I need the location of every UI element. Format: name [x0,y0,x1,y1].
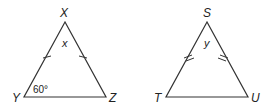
vertex-label-s: S [203,6,211,20]
vertex-label-z: Z [108,91,117,105]
triangle-stu: S T U y [154,6,260,105]
base-angle-label: 60° [33,84,48,95]
triangle-xyz: X Y Z x 60° [12,6,117,105]
double-tick-su-1 [220,55,228,58]
tick-mark-xy [43,56,51,58]
tick-mark-xz [79,56,87,58]
vertex-label-t: T [154,91,163,105]
triangle-stu-outline [166,22,248,97]
vertex-label-y: Y [12,91,21,105]
vertex-label-u: U [251,91,260,105]
vertex-label-x: X [59,6,69,20]
apex-angle-label-x: x [61,37,68,49]
triangles-svg: X Y Z x 60° S T U y [0,0,270,108]
double-tick-su-2 [218,58,226,61]
diagram-canvas: X Y Z x 60° S T U y [0,0,270,108]
apex-angle-label-y: y [203,37,211,49]
